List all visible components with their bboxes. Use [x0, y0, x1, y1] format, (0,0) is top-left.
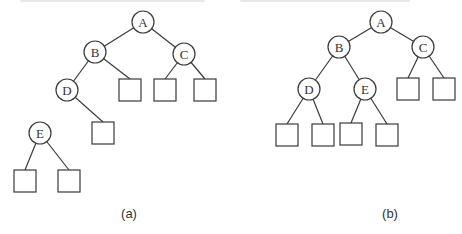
tree-node-d: D — [298, 78, 320, 100]
node-label: D — [62, 83, 71, 98]
external-node-square — [276, 124, 298, 146]
external-node-square — [92, 122, 114, 144]
node-label: E — [361, 82, 369, 97]
tree-node-e: E — [354, 78, 376, 100]
external-node-square — [433, 78, 455, 100]
tree-node-c: C — [173, 43, 195, 65]
node-label: A — [376, 15, 386, 30]
node-label: E — [36, 126, 44, 141]
external-node-square — [312, 124, 334, 146]
tree-node-b: B — [328, 36, 350, 58]
external-node-square — [340, 123, 362, 145]
node-label: B — [91, 45, 100, 60]
external-node-square — [58, 170, 80, 192]
node-label: B — [335, 40, 344, 55]
node-label: C — [180, 47, 189, 62]
node-label: C — [419, 40, 428, 55]
binary-tree-figure: ABCDE(a) ABCDE(b) — [0, 0, 462, 234]
tree-node-c: C — [412, 36, 434, 58]
subfigure-caption: (b) — [382, 206, 398, 221]
node-label: A — [138, 15, 148, 30]
tree-b: ABCDE(b) — [276, 11, 455, 221]
tree-node-a: A — [132, 11, 154, 33]
external-node-square — [194, 79, 216, 101]
tree-node-d: D — [56, 79, 78, 101]
external-node-square — [119, 79, 141, 101]
external-node-square — [14, 170, 36, 192]
tree-a: ABCDE(a) — [14, 11, 216, 221]
external-node-square — [397, 78, 419, 100]
external-node-square — [154, 79, 176, 101]
external-node-square — [376, 124, 398, 146]
tree-node-e: E — [29, 122, 51, 144]
tree-node-b: B — [84, 41, 106, 63]
tree-node-a: A — [370, 11, 392, 33]
node-label: D — [304, 82, 313, 97]
subfigure-caption: (a) — [121, 206, 137, 221]
